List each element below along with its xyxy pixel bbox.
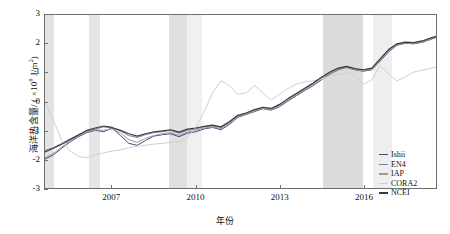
y-axis-label-close: ) xyxy=(29,56,39,59)
y-tick-label: 0 xyxy=(0,97,40,106)
legend: IshiiEN4IAPCORA2NCEI xyxy=(379,150,417,198)
legend-item-cora2[interactable]: CORA2 xyxy=(379,179,417,189)
x-tick-mark xyxy=(196,185,197,189)
y-tick-mark xyxy=(44,189,48,190)
legend-swatch-icon xyxy=(379,164,388,165)
legend-label: CORA2 xyxy=(391,179,417,189)
y-tick-mark xyxy=(44,160,48,161)
y-tick-mark xyxy=(44,102,48,103)
y-tick-mark xyxy=(44,72,48,73)
y-tick-label: 3 xyxy=(0,9,40,18)
legend-item-ishii[interactable]: Ishii xyxy=(379,150,417,160)
y-tick-mark xyxy=(44,131,48,132)
legend-item-ncei[interactable]: NCEI xyxy=(379,188,417,198)
x-tick-label: 2007 xyxy=(91,192,131,202)
legend-swatch-icon xyxy=(379,183,388,184)
x-axis-label: 年份 xyxy=(0,214,450,227)
y-tick-label: -3 xyxy=(0,184,40,193)
chart-root: 海洋热含量/ ( ×109 J/m2) 年份 3210-1-2-3 200720… xyxy=(0,0,450,234)
legend-swatch-icon xyxy=(379,192,388,193)
legend-label: NCEI xyxy=(391,188,410,198)
series-lines-group xyxy=(45,15,436,188)
x-tick-mark xyxy=(280,185,281,189)
y-tick-label: 2 xyxy=(0,38,40,47)
x-tick-mark xyxy=(364,185,365,189)
x-tick-label: 2016 xyxy=(344,192,384,202)
series-line-cora2 xyxy=(45,65,436,157)
y-tick-label: 1 xyxy=(0,67,40,76)
legend-swatch-icon xyxy=(379,173,388,174)
y-axis-label-exponent2: 2 xyxy=(28,59,34,62)
legend-item-en4[interactable]: EN4 xyxy=(379,160,417,170)
y-tick-mark xyxy=(44,43,48,44)
legend-swatch-icon xyxy=(379,154,388,155)
y-tick-label: -1 xyxy=(0,126,40,135)
x-tick-label: 2013 xyxy=(260,192,300,202)
legend-label: IAP xyxy=(391,169,404,179)
y-axis-label-exponent: 9 xyxy=(28,78,34,81)
y-tick-mark xyxy=(44,14,48,15)
legend-label: Ishii xyxy=(391,150,405,160)
y-tick-label: -2 xyxy=(0,155,40,164)
legend-label: EN4 xyxy=(391,160,406,170)
y-axis-label-prefix: 海洋热含量/ ( ×10 xyxy=(29,82,39,153)
series-line-ishii xyxy=(45,37,436,159)
series-line-iap xyxy=(45,37,436,158)
x-tick-mark xyxy=(111,185,112,189)
x-tick-label: 2010 xyxy=(176,192,216,202)
legend-item-iap[interactable]: IAP xyxy=(379,169,417,179)
